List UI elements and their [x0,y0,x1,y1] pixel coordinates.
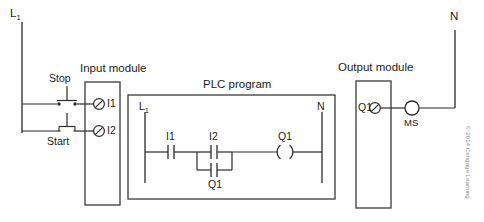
plc-wiring-diagram: L1 N Stop Start Input module I1 I2 PLC p… [0,0,484,222]
input-terminal-i2-label: I2 [107,125,116,136]
ladder-rails [145,112,322,183]
ladder-contact-i2-label: I2 [209,131,218,142]
input-module-title: Input module [80,63,147,75]
ladder-contact-q1-sealin [197,152,232,177]
ladder-contact-i1 [145,145,197,159]
n-rail-label: N [450,11,458,23]
stop-pushbutton-label: Stop [49,73,71,84]
plc-program-title: PLC program [203,79,271,91]
ladder-coil-q1 [277,145,293,159]
ladder-coil-q1-label: Q1 [278,131,292,142]
ladder-contact-i2 [197,145,232,159]
ms-motor-starter-coil [405,101,419,115]
start-pushbutton-label: Start [47,136,69,147]
diagram-canvas [0,0,484,222]
input-terminal-i2-screw [94,126,105,137]
ladder-contact-i1-label: I1 [166,131,175,142]
start-pushbutton-branch [22,113,97,131]
output-module-title: Output module [338,62,413,74]
plc-program-box [128,95,335,199]
ladder-contact-q1-label: Q1 [208,179,222,190]
output-terminal-q1-label: Q1 [358,102,372,113]
ladder-right-rail-label: N [317,101,325,112]
input-terminal-i1-screw [94,99,105,110]
ms-coil-label: MS [404,118,418,128]
l1-rail-label: L1 [10,8,21,22]
ladder-left-rail-label: L1 [139,101,149,115]
input-terminal-i1-label: I1 [107,98,116,109]
copyright-credit: © 2014 Cengage Learning [465,126,472,199]
stop-pushbutton-branch [22,86,97,106]
